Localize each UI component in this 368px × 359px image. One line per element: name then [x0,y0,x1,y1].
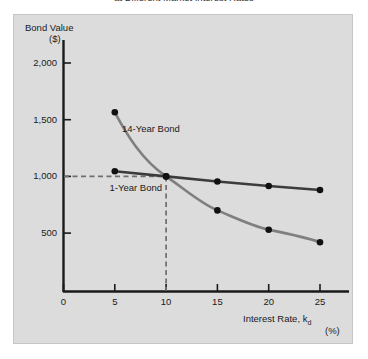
x-axis-label-line2: (%) [325,325,340,336]
x-tick-label-25: 25 [305,297,335,307]
x-tick-label-20: 20 [254,297,284,307]
x-tick-label-15: 15 [202,297,232,307]
chart-title: at Different Market Interest Rates [0,0,368,3]
bond-value-chart-figure: at Different Market Interest Rates [0,0,368,359]
y-axis-label-line2: ($) [49,33,61,44]
y-tick-label-1000: 1,000 [11,171,57,181]
x-tick-label-10: 10 [151,297,181,307]
y-tick-label-2000: 2,000 [11,58,57,68]
y-tick-label-1500: 1,500 [11,115,57,125]
y-axis-label-line1: Bond Value [25,22,73,33]
x-tick-label-5: 5 [100,297,130,307]
x-tick-label-0: 0 [49,297,79,307]
x-axis-label-line1: Interest Rate, kd [243,313,311,328]
series-label-1year: 1-Year Bond [66,182,162,193]
y-tick-label-500: 500 [11,228,57,238]
series-label-14year: 14-Year Bond [122,123,180,134]
x-axis-label-text: Interest Rate, k [243,313,307,324]
x-axis-label-subscript: d [307,319,311,326]
plot-panel [13,14,353,344]
